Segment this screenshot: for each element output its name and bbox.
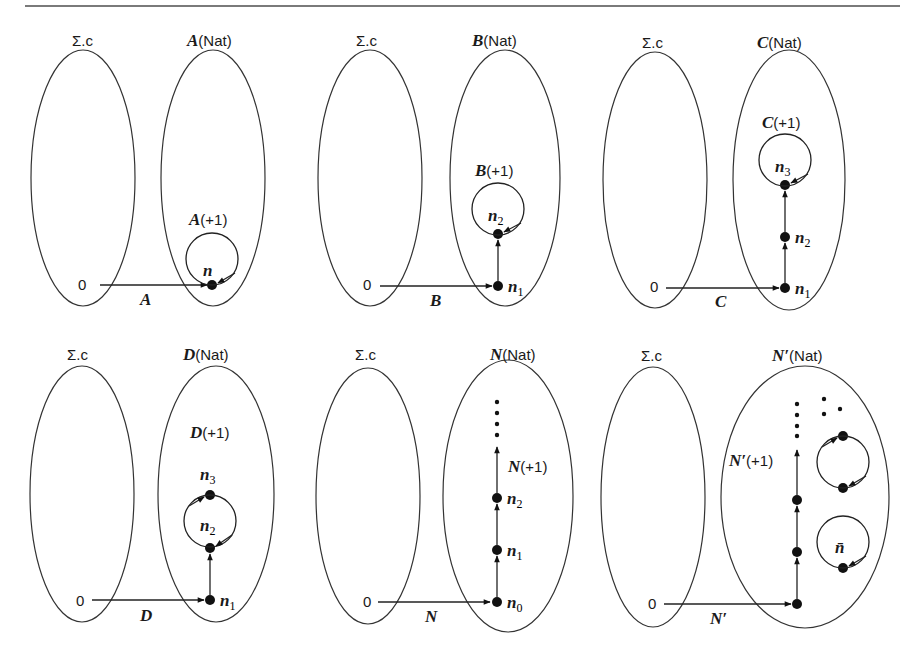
source-set-ellipse (601, 367, 705, 627)
node-n2 (205, 543, 215, 553)
panel-c: Σ.c C(Nat) 0 C n1 n2 n3 C(+1) (603, 33, 845, 311)
node-n2 (780, 232, 790, 242)
target-set-label: C(Nat) (757, 33, 802, 52)
zero-constant-label: 0 (78, 276, 86, 293)
node-n1 (492, 545, 502, 555)
node-1 (792, 547, 802, 557)
panel-d: Σ.c D(Nat) 0 D n1 n2 n3 D(+1) (30, 345, 274, 625)
node-label-n1: n1 (508, 277, 523, 299)
target-set-label: D(Nat) (182, 345, 229, 364)
ellipsis-dots (495, 400, 499, 437)
loop-arrowhead (849, 556, 866, 566)
target-set-ellipse (158, 366, 274, 622)
zero-constant-label: 0 (76, 592, 84, 609)
source-set-label: Σ.c (72, 32, 93, 49)
node-n2 (493, 229, 503, 239)
node-label-n2: n2 (200, 516, 215, 538)
operation-label: D(+1) (189, 423, 229, 442)
node-n3 (780, 180, 790, 190)
node-label-n2: n2 (507, 489, 522, 511)
target-set-label: N(Nat) (489, 345, 536, 364)
panel-b: Σ.c B(Nat) 0 B n1 n2 B(+1) (318, 31, 560, 310)
algebra-diagram: Σ.c A(Nat) 0 A n A(+1) Σ.c B(Nat) 0 B n1… (0, 0, 917, 659)
node-label-n3: n3 (200, 465, 215, 487)
node-n2 (492, 493, 502, 503)
cycle-loop (184, 495, 236, 547)
map-label: A (139, 290, 151, 309)
operation-label: N(+1) (507, 457, 547, 476)
node-n1 (205, 595, 215, 605)
source-set-ellipse (30, 366, 134, 622)
loop-arrowhead (218, 273, 235, 283)
operation-label: B(+1) (474, 161, 513, 180)
node-label-n3: n3 (775, 157, 790, 179)
map-label: N (424, 607, 438, 626)
source-set-ellipse (316, 368, 420, 624)
node-2 (792, 495, 802, 505)
panel-n-prime: Σ.c N′(Nat) 0 N′ N′(+1) n̄ (601, 346, 889, 628)
target-set-ellipse (733, 50, 845, 310)
node-label-n0: n0 (507, 593, 522, 615)
diagonal-ellipsis-dots (822, 397, 842, 416)
node-label-n2: n2 (488, 206, 503, 228)
node-n0 (492, 597, 502, 607)
panel-a: Σ.c A(Nat) 0 A n A(+1) (31, 31, 265, 309)
node-label-n1: n1 (795, 279, 810, 301)
node-label-n-bar: n̄ (835, 538, 844, 557)
source-set-label: Σ.c (356, 32, 377, 49)
operation-label: N′(+1) (728, 451, 773, 470)
node-label-n2: n2 (795, 228, 810, 250)
operation-label: C(+1) (762, 113, 800, 132)
target-set-ellipse (721, 366, 889, 628)
loop-arrowhead-lower (216, 535, 232, 546)
node-label-n1: n1 (507, 541, 522, 563)
zero-constant-label: 0 (648, 595, 656, 612)
source-set-label: Σ.c (641, 347, 662, 364)
target-set-label: N′(Nat) (771, 346, 822, 365)
source-set-label: Σ.c (355, 346, 376, 363)
two-cycle-loop (817, 436, 869, 488)
node-n1 (780, 283, 790, 293)
target-set-label: B(Nat) (471, 31, 517, 50)
target-set-ellipse (161, 50, 265, 306)
map-label: N′ (709, 609, 727, 628)
source-set-label: Σ.c (642, 34, 663, 51)
node-n1 (493, 281, 503, 291)
operation-label: A(+1) (188, 210, 227, 229)
panel-n: Σ.c N(Nat) 0 N n0 n1 n2 N(+1) (316, 345, 573, 632)
target-set-label: A(Nat) (186, 31, 232, 50)
node-label: n (203, 261, 212, 280)
node-label-n1: n1 (220, 591, 235, 613)
source-set-label: Σ.c (67, 346, 88, 363)
source-set-ellipse (318, 50, 422, 306)
ellipsis-dots (795, 402, 799, 438)
zero-constant-label: 0 (650, 278, 658, 295)
map-label: D (139, 606, 152, 625)
source-set-ellipse (603, 52, 707, 308)
zero-constant-label: 0 (363, 593, 371, 610)
zero-constant-label: 0 (363, 276, 371, 293)
map-label: B (429, 291, 441, 310)
node-zero-image (792, 599, 802, 609)
map-label: C (715, 292, 727, 311)
loop-arrowhead-lower (849, 476, 866, 486)
source-set-ellipse (31, 50, 135, 306)
